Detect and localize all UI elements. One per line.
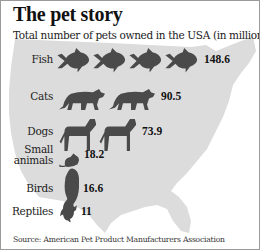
turtle-icon-shape [60, 198, 77, 222]
category-label: Dogs [1, 126, 53, 137]
value-label: 11 [81, 205, 92, 217]
category-label-line: Dogs [1, 126, 53, 137]
category-label: Fish [1, 54, 53, 65]
cat-icon [57, 86, 105, 110]
fish-icon [56, 48, 90, 74]
category-label: Reptiles [1, 206, 53, 217]
cat-icon [107, 86, 155, 110]
value-label: 148.6 [204, 53, 230, 65]
mouse-icon-shape [59, 153, 79, 167]
fish-icon [92, 48, 126, 74]
fish-icon-shape [129, 48, 161, 72]
category-label-line: Birds [1, 183, 53, 194]
value-label: 73.9 [142, 125, 162, 137]
value-label: 16.6 [83, 182, 103, 194]
dog-icon [58, 117, 96, 151]
category-label-line: animals [1, 155, 53, 166]
infographic: The pet story Total number of pets owned… [0, 0, 260, 250]
pictogram-rows: Fish148.6Cats90.5Dogs73.9Smallanimals18.… [1, 1, 259, 249]
cat-icon-shape [59, 89, 105, 110]
fish-icon [164, 48, 198, 74]
category-label-line: Reptiles [1, 206, 53, 217]
category-label: Cats [1, 91, 53, 102]
category-label: Smallanimals [1, 144, 53, 166]
turtle-icon [59, 198, 77, 222]
fish-icon-shape [57, 48, 89, 72]
dog-icon-shape [60, 119, 96, 151]
source-note: Source: American Pet Product Manufacture… [13, 235, 225, 244]
category-label-line: Fish [1, 54, 53, 65]
category-label: Birds [1, 183, 53, 194]
fish-icon [128, 48, 162, 74]
dog-icon [98, 117, 136, 151]
category-label-line: Small [1, 144, 53, 155]
fish-icon-shape [165, 48, 197, 72]
mouse-icon [58, 151, 80, 167]
value-label: 90.5 [161, 90, 181, 102]
dog-icon-shape [100, 119, 136, 151]
category-label-line: Cats [1, 91, 53, 102]
value-label: 18.2 [84, 148, 104, 160]
cat-icon-shape [109, 89, 155, 110]
fish-icon-shape [93, 48, 125, 72]
